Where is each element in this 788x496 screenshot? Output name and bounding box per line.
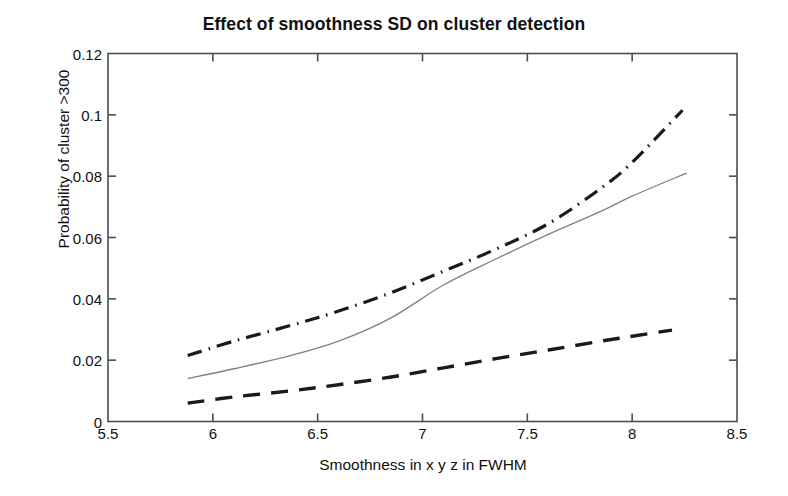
axes-frame bbox=[108, 54, 737, 422]
x-tick-label: 7 bbox=[418, 425, 426, 442]
data-curves bbox=[188, 110, 687, 403]
data-line-dash-dot bbox=[188, 110, 683, 355]
x-tick-label: 5.5 bbox=[98, 425, 119, 442]
x-tick-label: 6 bbox=[209, 425, 217, 442]
x-tick-label: 6.5 bbox=[307, 425, 328, 442]
data-line-solid bbox=[188, 173, 687, 378]
x-tick-label: 8 bbox=[628, 425, 636, 442]
x-tick-marks bbox=[213, 54, 632, 422]
plot-area bbox=[0, 0, 788, 496]
data-line-dashed bbox=[188, 330, 672, 403]
x-tick-label: 8.5 bbox=[727, 425, 748, 442]
figure-container: Effect of smoothness SD on cluster detec… bbox=[0, 0, 788, 496]
x-tick-label: 7.5 bbox=[517, 425, 538, 442]
